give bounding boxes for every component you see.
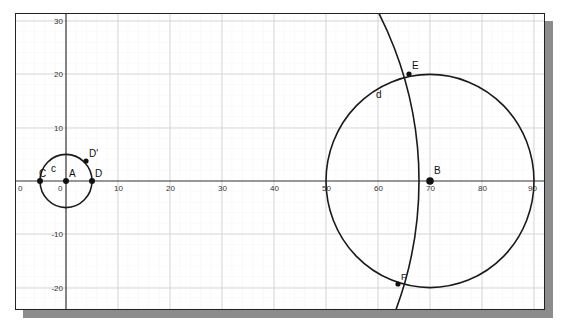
label-f: F: [401, 272, 407, 282]
x-tick-70: 70: [426, 184, 435, 193]
label-b: B: [434, 165, 441, 176]
x-tick-80: 80: [478, 184, 487, 193]
point-e[interactable]: [406, 71, 411, 76]
x-tick-30: 30: [218, 184, 227, 193]
label-a: A: [69, 168, 76, 179]
point-b[interactable]: [426, 177, 434, 185]
y-tick-10: 10: [54, 124, 63, 133]
label-circle-c: c: [51, 163, 56, 174]
x-tick-20: 20: [166, 184, 175, 193]
label-circle-d: d: [376, 89, 382, 100]
label-c: C: [39, 168, 46, 179]
minor-grid: [16, 14, 545, 310]
x-tick-0: 0: [58, 184, 63, 193]
point-d-prime[interactable]: [83, 158, 88, 163]
y-tick-neg20: -20: [51, 284, 63, 293]
y-tick-30: 30: [54, 17, 63, 26]
label-e: E: [412, 60, 419, 71]
x-tick-60: 60: [374, 184, 383, 193]
x-tick-left: 0: [18, 184, 23, 193]
x-tick-40: 40: [270, 184, 279, 193]
y-tick-neg10: -10: [51, 230, 63, 239]
label-d-prime: D': [89, 148, 98, 159]
point-f[interactable]: [395, 281, 400, 286]
graphics-view[interactable]: 0 0 10 20 30 40 50 60 70 80 90 30 20 10 …: [15, 13, 545, 310]
x-tick-10: 10: [114, 184, 123, 193]
canvas[interactable]: 0 0 10 20 30 40 50 60 70 80 90 30 20 10 …: [16, 14, 545, 310]
label-d: D: [95, 168, 102, 179]
y-tick-20: 20: [54, 70, 63, 79]
